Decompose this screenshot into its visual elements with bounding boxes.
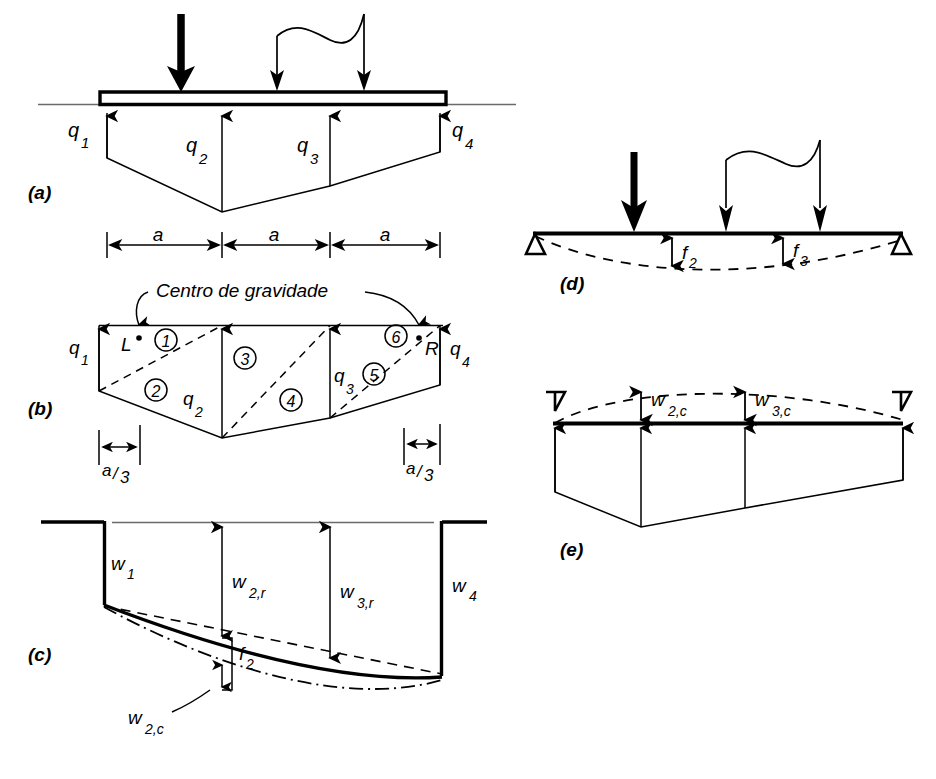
pressure-label-a-3-sub: 3 — [310, 150, 319, 167]
settlement-label-w1-base: w — [111, 553, 126, 574]
figure-root: q 1 q 2 q 3 q 4 (a) a a a — [0, 0, 936, 779]
rigid-plate-a — [100, 92, 446, 105]
dim-right-den: 3 — [424, 466, 434, 485]
area-number-6: 6 — [385, 325, 407, 347]
pressure-label-b-3-base: q — [334, 365, 345, 386]
pressure-diagram-b — [99, 326, 440, 439]
area-number-2: 2 — [145, 379, 167, 401]
pressure-label-a-4-sub: 4 — [465, 135, 473, 152]
settlement-label-w2r-base: w — [232, 571, 247, 592]
area-number-2-text: 2 — [151, 383, 161, 400]
pressure-label-b-1-sub: 1 — [81, 352, 89, 368]
dimension-label-a-1: a — [153, 224, 164, 245]
deflection-label-f3-d-sub: 3 — [800, 253, 808, 269]
reaction-arrows-e — [555, 428, 903, 527]
area-number-5-text: 5 — [370, 367, 379, 384]
triangle-support-right-d — [892, 234, 911, 254]
deflection-label-f2-d: f 2 — [682, 242, 697, 271]
dim-right-num: a — [406, 459, 415, 478]
pressure-label-a-1-base: q — [68, 119, 79, 141]
area-number-4: 4 — [280, 389, 302, 411]
distributed-load-a — [277, 14, 364, 80]
dim-left-num: a — [102, 461, 111, 480]
rigid-settlement-line-c — [104, 606, 442, 674]
panel-label-e: (e) — [560, 539, 583, 560]
camber-leader-c — [172, 690, 210, 712]
camber-label-w3c-e-base: w — [755, 389, 770, 410]
distributed-load-d — [726, 140, 820, 208]
dim-right-slash: / — [416, 462, 424, 481]
center-of-gravity-label: Centro de gravidade — [156, 280, 328, 301]
cg-point-left — [136, 335, 142, 341]
dimension-a-over-3-left — [99, 425, 140, 465]
concentrated-load-arrow-a — [167, 14, 195, 92]
area-number-4-text: 4 — [287, 393, 296, 410]
panel-label-c: (c) — [28, 644, 51, 665]
settlement-label-w1-sub: 1 — [127, 566, 135, 582]
settlement-label-w4-sub: 4 — [469, 588, 477, 604]
dim-left-den: 3 — [120, 468, 130, 487]
camber-label-w2c-e-sub: 2,c — [667, 403, 687, 419]
pressure-label-b-2: q 2 — [183, 388, 203, 420]
pressure-label-b-4-sub: 4 — [462, 354, 470, 370]
distributed-load-arrowhead-d2 — [813, 205, 827, 232]
camber-label-w2c-e: w 2,c — [651, 389, 687, 419]
area-number-3: 3 — [234, 347, 256, 369]
panel-label-b: (b) — [28, 398, 52, 419]
camber-label-w2c-e-base: w — [651, 389, 666, 410]
deflected-shape-d — [535, 236, 901, 270]
camber-label-w3c-e-sub: 3,c — [772, 403, 791, 419]
pressure-label-b-2-base: q — [183, 388, 194, 409]
settlement-label-w1: w 1 — [111, 553, 135, 582]
area-number-6-text: 6 — [392, 329, 401, 346]
cg-point-right — [416, 335, 422, 341]
settlement-label-w3r-base: w — [340, 581, 355, 602]
pressure-label-a-2-sub: 2 — [198, 150, 208, 167]
inverted-triangle-support-right-e — [892, 392, 911, 411]
deflection-label-f3-d: f 3 — [793, 240, 808, 269]
reaction-arrows-a — [107, 116, 440, 212]
settlement-label-w3r: w 3,r — [340, 581, 375, 611]
settlement-label-w2r: w 2,r — [232, 571, 267, 601]
pressure-label-b-4: q 4 — [450, 338, 470, 370]
pressure-label-a-3-base: q — [297, 134, 308, 156]
dimension-label-b-left: a / 3 — [102, 461, 130, 487]
camber-label-w3c-e: w 3,c — [755, 389, 791, 419]
area-number-1: 1 — [155, 329, 177, 351]
camber-shape-e — [555, 394, 903, 423]
engineering-figure-svg: q 1 q 2 q 3 q 4 (a) a a a — [0, 0, 936, 779]
area-number-5: 5 — [363, 363, 385, 385]
pressure-label-b-1-base: q — [69, 337, 80, 358]
settlement-label-w2r-sub: 2,r — [248, 585, 267, 601]
point-label-L: L — [121, 334, 132, 355]
pressure-label-a-2-base: q — [186, 134, 197, 156]
settlement-label-w3r-sub: 3,r — [357, 595, 375, 611]
pressure-diagram-a — [107, 113, 440, 212]
pressure-label-b-1: q 1 — [69, 337, 89, 368]
settlement-label-w4: w 4 — [452, 575, 477, 604]
area-number-3-text: 3 — [241, 351, 250, 368]
deflection-label-f2-d-sub: 2 — [688, 255, 697, 271]
concentrated-load-arrow-d — [621, 152, 647, 232]
pressure-label-a-1: q 1 — [68, 119, 89, 151]
pressure-label-b-3: q 3 — [334, 365, 354, 397]
pressure-label-a-3: q 3 — [297, 134, 319, 167]
subdivision-lines-b — [99, 326, 440, 439]
distributed-load-arrowhead-d1 — [719, 205, 733, 232]
camber-label-w2c-c-sub: 2,c — [144, 721, 164, 737]
panel-d: f 2 f 3 (d) — [526, 140, 911, 294]
area-number-1-text: 1 — [162, 333, 171, 350]
dimension-label-a-2: a — [269, 224, 280, 245]
pressure-label-a-4: q 4 — [452, 119, 473, 152]
pressure-label-a-4-base: q — [452, 119, 463, 141]
pressure-label-a-1-sub: 1 — [81, 134, 89, 151]
dim-left-slash: / — [112, 464, 120, 483]
panel-label-a: (a) — [28, 182, 51, 203]
pressure-label-b-2-sub: 2 — [194, 404, 203, 420]
deflection-label-f2-c-base: f — [239, 643, 246, 664]
pressure-diagram-e — [555, 428, 903, 527]
pressure-label-b-4-base: q — [450, 338, 461, 359]
panel-e: w 2,c w 3,c (e) — [546, 389, 911, 560]
pressure-label-a-2: q 2 — [186, 134, 208, 167]
deflection-label-f2-c-sub: 2 — [245, 656, 254, 672]
